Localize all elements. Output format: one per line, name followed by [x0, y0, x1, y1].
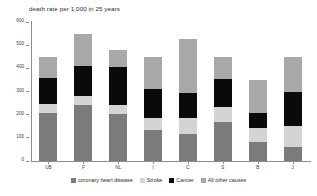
bar-segment[interactable]	[39, 113, 57, 161]
legend-label: Cancer	[176, 177, 193, 183]
bar-segment[interactable]	[74, 66, 92, 96]
bar-segment[interactable]	[249, 142, 267, 161]
y-tick-label: 200	[0, 111, 24, 117]
x-tick-mark	[258, 161, 259, 164]
y-tick-label: 300	[0, 88, 24, 94]
x-tick-mark	[83, 161, 84, 164]
bar-segment[interactable]	[109, 114, 127, 161]
x-axis-label-i: I	[138, 165, 168, 170]
bar-stack[interactable]	[144, 57, 162, 161]
bar-segment[interactable]	[109, 105, 127, 114]
x-tick-mark	[223, 161, 224, 164]
x-axis-label-c: C	[173, 165, 203, 170]
bar-segment[interactable]	[74, 105, 92, 161]
x-axis-label-nl: NL	[103, 165, 133, 170]
bar-segment[interactable]	[144, 130, 162, 161]
bar-segment[interactable]	[214, 107, 232, 122]
chart-title: death rate per 1,000 in 25 years	[29, 5, 120, 12]
y-tick-mark	[26, 114, 29, 115]
x-axis-line	[31, 161, 311, 162]
x-axis-label-ub: UB	[33, 165, 63, 170]
y-tick-mark	[26, 161, 29, 162]
bar-stack[interactable]	[284, 57, 302, 161]
legend-label: Stroke	[147, 177, 163, 183]
y-tick-label: 500	[0, 41, 24, 47]
legend-entry[interactable]: Stroke	[140, 177, 163, 183]
x-axis-label-s: S	[208, 165, 238, 170]
legend-swatch-icon	[169, 178, 174, 183]
legend-swatch-icon	[71, 178, 76, 183]
legend-swatch-icon	[140, 178, 145, 183]
bar-stack[interactable]	[39, 57, 57, 161]
legend-entry[interactable]: All other causes	[201, 177, 246, 183]
y-tick-mark	[26, 45, 29, 46]
bar-segment[interactable]	[179, 93, 197, 118]
bar-segment[interactable]	[39, 78, 57, 103]
legend-entry[interactable]: coronary heart disease	[71, 177, 133, 183]
bar-stack[interactable]	[74, 34, 92, 161]
x-axis-label-j: J	[278, 165, 308, 170]
bar-segment[interactable]	[109, 50, 127, 67]
bar-segment[interactable]	[284, 57, 302, 92]
x-tick-mark	[153, 161, 154, 164]
x-tick-mark	[118, 161, 119, 164]
bar-segment[interactable]	[144, 118, 162, 130]
bar-segment[interactable]	[284, 147, 302, 161]
bar-segment[interactable]	[179, 134, 197, 161]
bar-segment[interactable]	[214, 122, 232, 161]
bar-segment[interactable]	[179, 118, 197, 135]
bar-segment[interactable]	[179, 39, 197, 93]
bar-segment[interactable]	[249, 128, 267, 142]
stacked-bar-chart: death rate per 1,000 in 25 years 0100200…	[0, 0, 317, 196]
y-tick-mark	[26, 137, 29, 138]
y-tick-mark	[26, 68, 29, 69]
bar-segment[interactable]	[39, 104, 57, 113]
bar-segment[interactable]	[144, 89, 162, 119]
bar-segment[interactable]	[74, 96, 92, 105]
x-axis-label-b: B	[243, 165, 273, 170]
legend-swatch-icon	[201, 178, 206, 183]
y-tick-label: 100	[0, 134, 24, 140]
y-tick-label: 400	[0, 64, 24, 70]
bar-segment[interactable]	[74, 34, 92, 66]
bar-stack[interactable]	[179, 39, 197, 161]
x-tick-mark	[188, 161, 189, 164]
bar-segment[interactable]	[249, 80, 267, 113]
x-tick-mark	[293, 161, 294, 164]
bar-segment[interactable]	[284, 126, 302, 147]
y-tick-label: 600	[0, 18, 24, 24]
bar-segment[interactable]	[249, 113, 267, 128]
bar-stack[interactable]	[109, 50, 127, 161]
bar-segment[interactable]	[214, 57, 232, 79]
bar-segment[interactable]	[284, 92, 302, 126]
bar-segment[interactable]	[39, 57, 57, 78]
bar-stack[interactable]	[214, 57, 232, 161]
x-axis-label-f: F	[68, 165, 98, 170]
y-tick-mark	[26, 91, 29, 92]
legend-entry[interactable]: Cancer	[169, 177, 193, 183]
x-tick-mark	[48, 161, 49, 164]
legend-label: All other causes	[208, 177, 246, 183]
bar-segment[interactable]	[214, 79, 232, 107]
y-tick-label: 0	[0, 157, 24, 163]
chart-legend: coronary heart diseaseStrokeCancerAll ot…	[0, 177, 317, 183]
y-tick-mark	[26, 22, 29, 23]
bar-segment[interactable]	[109, 67, 127, 105]
bar-segment[interactable]	[144, 57, 162, 89]
bar-stack[interactable]	[249, 80, 267, 161]
legend-label: coronary heart disease	[78, 177, 133, 183]
plot-area	[31, 22, 310, 161]
